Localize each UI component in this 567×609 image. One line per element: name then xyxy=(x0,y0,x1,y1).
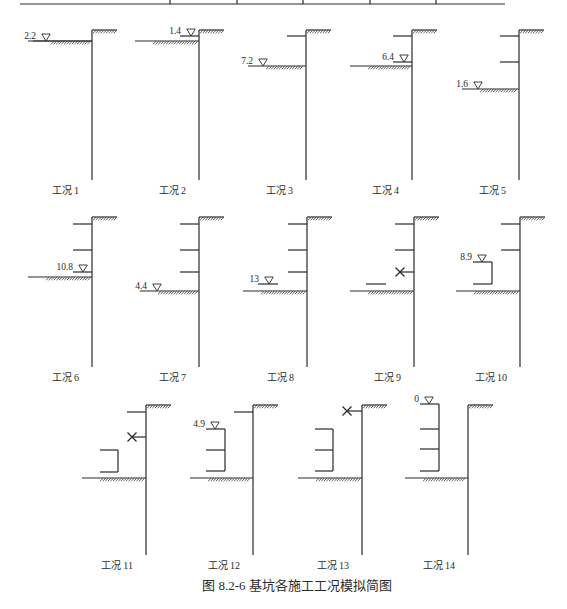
water-level-value: 8.9 xyxy=(460,252,472,262)
case-panel-11: 工况 11 xyxy=(82,405,171,571)
case-panel-7: 4.4工况 7 xyxy=(135,217,224,383)
case-label: 工况 4 xyxy=(372,185,400,196)
case-label: 工况 3 xyxy=(266,185,294,196)
inside-soil-hatch xyxy=(474,291,519,294)
inside-soil-hatch xyxy=(316,478,361,481)
case-panels: 2.2工况 11.4工况 27.2工况 36.4工况 41.6工况 510.8工… xyxy=(24,26,545,571)
inner-support-frame xyxy=(100,450,118,472)
water-level-value: 1.4 xyxy=(169,26,181,36)
water-level-icon xyxy=(425,397,434,404)
water-level-value: 10.8 xyxy=(56,262,73,272)
case-panel-6: 10.8工况 6 xyxy=(28,217,117,383)
figure-caption: 图 8.2-6 基坑各施工工况模拟简图 xyxy=(202,578,392,593)
water-level-value: 2.2 xyxy=(24,31,36,41)
outside-soil-hatch xyxy=(200,217,224,220)
outside-soil-hatch xyxy=(308,217,332,220)
water-level-value: 6.4 xyxy=(382,52,394,62)
water-level-value: 4.4 xyxy=(135,281,147,291)
case-panel-9: 工况 9 xyxy=(350,217,439,383)
water-level-value: 1.6 xyxy=(456,79,468,89)
excavation-case-diagram: 2.2工况 11.4工况 27.2工况 36.4工况 41.6工况 510.8工… xyxy=(0,0,567,609)
inner-support-frame xyxy=(420,404,439,471)
water-level-icon xyxy=(400,55,409,62)
water-level-icon xyxy=(42,34,51,41)
case-panel-12: 4.9工况 12 xyxy=(190,405,278,571)
case-label: 工况 13 xyxy=(317,560,350,571)
inner-support-frame xyxy=(206,429,225,471)
case-panel-10: 8.9工况 10 xyxy=(456,217,545,383)
inside-soil-hatch xyxy=(208,478,250,481)
case-panel-1: 2.2工况 1 xyxy=(24,30,117,196)
case-panel-8: 13工况 8 xyxy=(243,217,332,383)
outside-soil-hatch xyxy=(93,217,117,220)
water-level-icon xyxy=(187,29,196,36)
water-level-value: 7.2 xyxy=(241,56,253,66)
case-label: 工况 12 xyxy=(208,560,241,571)
water-level-icon xyxy=(153,284,162,291)
header-table-rule xyxy=(20,0,505,4)
outside-soil-hatch xyxy=(415,217,439,220)
inside-soil-hatch xyxy=(368,291,413,294)
water-level-icon xyxy=(211,422,220,429)
water-level-icon xyxy=(478,255,487,262)
case-panel-2: 1.4工况 2 xyxy=(135,26,224,196)
inside-soil-hatch xyxy=(261,291,306,294)
case-label: 工况 7 xyxy=(159,372,187,383)
inside-soil-hatch xyxy=(368,66,410,69)
water-level-value: 0 xyxy=(414,394,419,404)
outside-soil-hatch xyxy=(307,30,331,33)
inside-soil-hatch xyxy=(51,41,90,44)
water-level-icon xyxy=(474,82,483,89)
case-label: 工况 9 xyxy=(374,372,402,383)
case-label: 工况 6 xyxy=(52,372,80,383)
inside-soil-hatch xyxy=(480,89,517,92)
outside-soil-hatch xyxy=(520,30,544,33)
inner-support-frame xyxy=(315,429,333,471)
inside-soil-hatch xyxy=(158,291,197,294)
case-label: 工况 10 xyxy=(475,372,508,383)
case-panel-4: 6.4工况 4 xyxy=(350,30,437,196)
inside-soil-hatch xyxy=(423,478,465,481)
outside-soil-hatch xyxy=(363,405,387,408)
water-level-value: 4.9 xyxy=(193,419,205,429)
inside-soil-hatch xyxy=(266,66,303,69)
case-label: 工况 1 xyxy=(52,185,80,196)
case-label: 工况 11 xyxy=(101,560,133,571)
case-panel-14: 0工况 14 xyxy=(405,394,493,571)
outside-soil-hatch xyxy=(521,217,545,220)
case-panel-3: 7.2工况 3 xyxy=(241,30,331,196)
inner-support-frame xyxy=(473,262,492,284)
outside-soil-hatch xyxy=(413,30,437,33)
case-label: 工况 5 xyxy=(479,185,507,196)
case-panel-5: 1.6工况 5 xyxy=(456,30,544,196)
water-level-icon xyxy=(79,265,88,272)
outside-soil-hatch xyxy=(200,30,224,33)
inside-soil-hatch xyxy=(46,277,91,280)
case-label: 工况 2 xyxy=(159,185,187,196)
case-panel-13: 工况 13 xyxy=(298,405,387,571)
inside-soil-hatch xyxy=(153,41,198,44)
outside-soil-hatch xyxy=(254,405,278,408)
water-level-icon xyxy=(265,277,274,284)
outside-soil-hatch xyxy=(147,405,171,408)
outside-soil-hatch xyxy=(469,405,493,408)
case-label: 工况 8 xyxy=(267,372,295,383)
water-level-value: 13 xyxy=(250,274,260,284)
case-label: 工况 14 xyxy=(423,560,456,571)
water-level-icon xyxy=(259,59,268,66)
outside-soil-hatch xyxy=(93,30,117,33)
inside-soil-hatch xyxy=(100,478,145,481)
